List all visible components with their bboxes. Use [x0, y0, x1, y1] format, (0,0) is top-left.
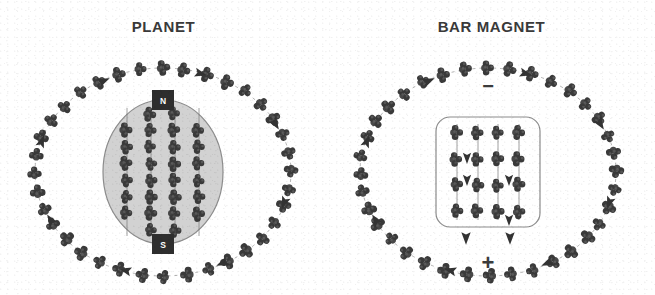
molecule-cluster	[280, 145, 298, 162]
molecule-cluster	[577, 228, 598, 248]
molecule-cluster	[274, 127, 291, 143]
molecule-cluster	[252, 95, 271, 114]
pole-label-negative: −	[482, 75, 494, 97]
molecule-cluster	[459, 266, 474, 283]
cluster-atom-highlight	[459, 130, 462, 133]
molecule-cluster	[90, 72, 109, 91]
molecule-cluster	[352, 147, 370, 163]
molecule-cluster	[458, 60, 473, 77]
molecule-cluster	[71, 243, 90, 263]
molecule-cluster	[35, 200, 54, 218]
pole-label-south: S	[160, 240, 166, 250]
molecule-cluster	[435, 66, 451, 84]
molecule-cluster	[200, 261, 216, 278]
molecule-cluster	[360, 200, 378, 217]
cluster-atom-highlight	[455, 126, 458, 129]
molecule-cluster	[382, 229, 400, 247]
molecule-cluster	[561, 81, 580, 101]
cluster-atom-highlight	[474, 157, 477, 160]
molecule-cluster	[282, 164, 299, 179]
molecule-cluster	[29, 184, 46, 199]
molecule-cluster	[542, 73, 560, 91]
molecule-cluster	[235, 241, 255, 262]
magnetic-field-comparison-figure: PLANET NS BAR MAGNET −+	[0, 0, 655, 295]
pole-label-positive: +	[482, 250, 495, 275]
panel-bar-magnet: BAR MAGNET −+	[328, 0, 655, 295]
planet-diagram: NS	[0, 0, 327, 295]
cluster-atom-highlight	[139, 63, 142, 66]
molecule-cluster	[264, 214, 283, 233]
molecule-cluster	[501, 60, 518, 79]
cluster-atom-highlight	[453, 130, 456, 133]
arrowhead-shape	[461, 232, 470, 245]
molecule-cluster	[155, 269, 170, 285]
cluster-atom	[471, 156, 477, 162]
molecule-cluster	[236, 82, 254, 100]
molecule-cluster	[605, 146, 622, 161]
cluster-atom-highlight	[476, 153, 479, 156]
molecule-cluster	[42, 111, 61, 130]
molecule-cluster	[219, 73, 236, 92]
pole-label-north: N	[160, 96, 166, 106]
molecule-cluster	[29, 147, 45, 161]
molecule-cluster	[606, 182, 623, 198]
molecule-cluster	[134, 62, 146, 76]
molecule-cluster	[252, 230, 271, 249]
cluster-atom	[450, 129, 457, 136]
molecule-cluster	[27, 166, 42, 179]
molecule-cluster	[366, 110, 386, 130]
molecule-cluster	[599, 128, 617, 145]
molecule-cluster	[607, 163, 625, 179]
molecule-cluster	[156, 59, 172, 77]
molecule-cluster	[414, 252, 433, 272]
molecule-cluster	[176, 61, 193, 79]
molecule-cluster	[180, 267, 194, 283]
molecule-cluster	[56, 228, 77, 249]
molecule-cluster	[353, 182, 371, 199]
cluster-atom-highlight	[143, 67, 146, 70]
molecule-cluster	[525, 263, 539, 279]
molecule-cluster	[353, 167, 369, 181]
cluster-atom-highlight	[137, 67, 140, 70]
bar-magnet-diagram: −+	[328, 0, 655, 295]
molecule-cluster	[576, 95, 595, 114]
molecule-cluster	[503, 266, 518, 283]
molecule-cluster	[589, 216, 607, 234]
field-arrowhead	[461, 232, 470, 245]
cluster-atom-highlight	[480, 157, 483, 160]
panel-planet: PLANET NS	[0, 0, 327, 295]
molecule-cluster	[264, 110, 283, 129]
cluster-atom	[135, 66, 141, 72]
molecule-cluster	[560, 242, 581, 263]
molecule-cluster	[481, 60, 494, 75]
molecule-cluster	[43, 215, 61, 232]
molecule-cluster	[395, 84, 414, 103]
molecule-cluster	[72, 82, 91, 101]
molecule-cluster	[111, 65, 128, 83]
arrowhead-shape	[505, 232, 514, 245]
field-arrowhead	[505, 232, 514, 245]
molecule-cluster	[56, 97, 75, 115]
planet-body	[103, 100, 223, 244]
molecule-cluster	[90, 252, 108, 271]
molecule-cluster	[134, 266, 151, 284]
molecule-cluster	[396, 242, 416, 262]
